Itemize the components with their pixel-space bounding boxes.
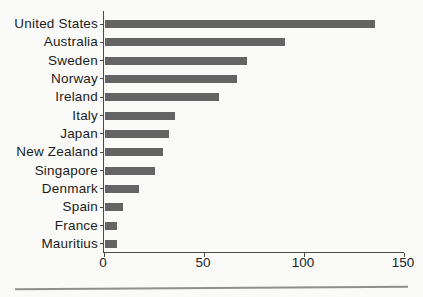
y-axis-tick <box>100 225 104 226</box>
bar-ireland <box>105 93 219 101</box>
y-axis-tick <box>100 170 104 171</box>
x-axis-tick-labels: 050100150 <box>103 256 403 274</box>
bar-chart: United StatesAustraliaSwedenNorwayIrelan… <box>0 0 423 280</box>
y-axis-tick <box>100 24 104 25</box>
bar-norway <box>105 75 237 83</box>
bar-singapore <box>105 167 155 175</box>
bar-mauritius <box>105 240 117 248</box>
figure: United StatesAustraliaSwedenNorwayIrelan… <box>0 0 423 297</box>
y-axis-tick <box>100 115 104 116</box>
plot-area <box>103 11 404 253</box>
y-axis-tick <box>100 60 104 61</box>
category-label: Denmark <box>0 180 98 198</box>
y-axis-tick <box>100 188 104 189</box>
category-label: New Zealand <box>0 143 98 161</box>
x-axis-tick-label: 0 <box>99 256 107 270</box>
x-axis-tick-label: 150 <box>392 256 415 270</box>
category-label: Italy <box>0 107 98 125</box>
bar-sweden <box>105 57 247 65</box>
y-axis-tick <box>100 42 104 43</box>
category-label: Norway <box>0 70 98 88</box>
category-label: Sweden <box>0 52 98 70</box>
x-axis-tick-label: 100 <box>292 256 315 270</box>
category-label: Australia <box>0 33 98 51</box>
y-axis-tick <box>100 78 104 79</box>
y-axis-tick <box>100 207 104 208</box>
category-label: Japan <box>0 125 98 143</box>
bar-new-zealand <box>105 148 163 156</box>
bar-denmark <box>105 185 139 193</box>
category-label: United States <box>0 15 98 33</box>
y-axis-tick <box>100 243 104 244</box>
category-label: Mauritius <box>0 235 98 253</box>
bar-spain <box>105 203 123 211</box>
category-label: Singapore <box>0 162 98 180</box>
bar-france <box>105 222 117 230</box>
category-label: Spain <box>0 198 98 216</box>
bar-italy <box>105 112 175 120</box>
y-axis-tick <box>100 152 104 153</box>
y-axis-tick <box>100 133 104 134</box>
category-label: France <box>0 217 98 235</box>
y-axis-labels: United StatesAustraliaSwedenNorwayIrelan… <box>0 0 98 260</box>
page-divider-rule <box>15 286 408 290</box>
bar-japan <box>105 130 169 138</box>
x-axis-tick-label: 50 <box>195 256 210 270</box>
y-axis-tick <box>100 97 104 98</box>
category-label: Ireland <box>0 88 98 106</box>
bar-australia <box>105 38 285 46</box>
bar-united-states <box>105 20 375 28</box>
